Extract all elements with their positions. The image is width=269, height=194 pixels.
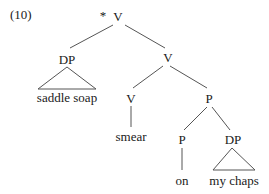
- terminal-my-chaps: my chaps: [209, 173, 258, 188]
- branch-root-dp: [70, 25, 113, 48]
- terminal-smear: smear: [115, 129, 147, 144]
- triangle-subject-dp: [38, 67, 96, 89]
- triangle-object-dp: [213, 148, 255, 170]
- node-object-dp: DP: [225, 132, 242, 147]
- node-prep-p: P: [178, 132, 185, 147]
- terminal-saddle-soap: saddle soap: [37, 90, 97, 105]
- syntax-tree-figure: (10) * V DP saddle soap V V smear P P on…: [0, 0, 269, 194]
- terminal-on: on: [176, 173, 190, 188]
- node-verb-v: V: [126, 91, 136, 106]
- branch-p-dp: [212, 107, 230, 130]
- node-root-v: V: [113, 9, 123, 24]
- node-subject-dp: DP: [59, 52, 76, 67]
- branch-vbar-v: [133, 66, 163, 88]
- tree-canvas: (10) * V DP saddle soap V V smear P P on…: [0, 0, 269, 194]
- ungrammatical-mark: *: [100, 8, 107, 23]
- node-pp: P: [205, 91, 212, 106]
- branch-p-p: [184, 107, 207, 130]
- branch-vbar-p: [170, 66, 207, 88]
- branch-root-vbar: [125, 25, 165, 48]
- node-vbar: V: [163, 50, 173, 65]
- example-number: (10): [10, 7, 32, 22]
